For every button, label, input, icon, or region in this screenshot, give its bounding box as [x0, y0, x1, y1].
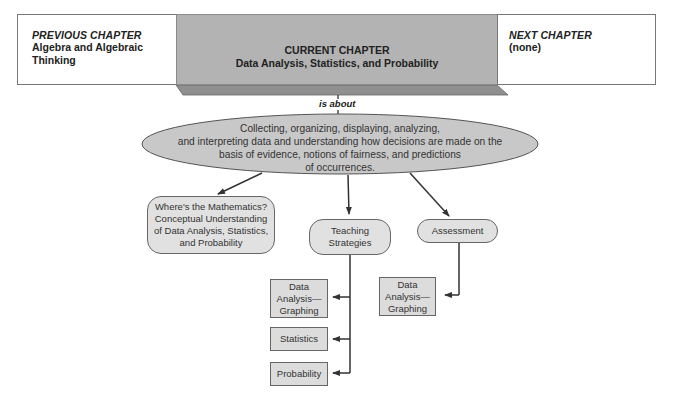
- next-chapter-label: NEXT CHAPTER: [509, 29, 655, 41]
- assessment-item-line: Analysis—: [385, 291, 430, 303]
- central-idea-text: Collecting, organizing, displaying, anal…: [140, 122, 540, 174]
- central-idea-line3: basis of evidence, notions of fairness, …: [140, 148, 540, 161]
- previous-chapter-label: PREVIOUS CHAPTER: [32, 29, 176, 41]
- assessment-node: Assessment: [417, 219, 498, 243]
- teaching-item-probability: Probability: [270, 362, 328, 386]
- is-about-label: is about: [319, 98, 355, 109]
- teaching-item-line: Graphing: [279, 305, 318, 317]
- previous-chapter-box: PREVIOUS CHAPTER Algebra and Algebraic T…: [17, 14, 177, 85]
- assessment-item-line: Data: [397, 279, 417, 291]
- mathematics-line3: of Data Analysis, Statistics,: [154, 225, 268, 237]
- mathematics-node: Where's the Mathematics? Conceptual Unde…: [147, 196, 275, 254]
- assessment-label: Assessment: [432, 225, 484, 237]
- teaching-item-line: Statistics: [280, 333, 318, 345]
- mathematics-line4: and Probability: [180, 237, 243, 249]
- mathematics-line1: Where's the Mathematics?: [155, 201, 267, 213]
- teaching-item-line: Analysis—: [277, 293, 322, 305]
- teaching-strategies-node: Teaching Strategies: [309, 219, 391, 255]
- next-chapter-title: (none): [509, 41, 655, 54]
- previous-chapter-title-line2: Thinking: [32, 54, 176, 67]
- current-chapter-label: CURRENT CHAPTER: [177, 44, 497, 57]
- assessment-item-line: Graphing: [388, 303, 427, 315]
- current-chapter-title: Data Analysis, Statistics, and Probabili…: [177, 57, 497, 70]
- central-idea-line1: Collecting, organizing, displaying, anal…: [140, 122, 540, 135]
- current-chapter-box: CURRENT CHAPTER Data Analysis, Statistic…: [176, 14, 498, 85]
- previous-chapter-title-line1: Algebra and Algebraic: [32, 41, 176, 54]
- next-chapter-box: NEXT CHAPTER (none): [497, 14, 656, 85]
- teaching-item-data-analysis: Data Analysis— Graphing: [270, 279, 328, 318]
- teaching-line2: Strategies: [329, 237, 372, 249]
- assessment-item-data-analysis: Data Analysis— Graphing: [379, 277, 436, 316]
- current-chapter-ledge: [176, 85, 508, 95]
- teaching-item-statistics: Statistics: [270, 327, 328, 351]
- teaching-line1: Teaching: [331, 225, 369, 237]
- teaching-item-line: Probability: [277, 368, 321, 380]
- teaching-item-line: Data: [289, 281, 309, 293]
- mathematics-line2: Conceptual Understanding: [155, 213, 268, 225]
- central-idea-line2: and interpreting data and understanding …: [140, 135, 540, 148]
- central-idea-line4: of occurrences.: [140, 161, 540, 174]
